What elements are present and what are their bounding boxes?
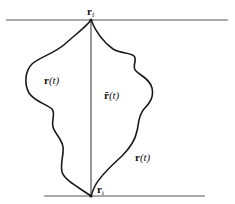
initial-point-label: ri xyxy=(97,183,104,197)
left-path xyxy=(26,20,91,196)
right-path-label: r(t) xyxy=(135,151,151,164)
trajectory-diagram: rf ri r(t) r̄(t) r(t) xyxy=(0,0,235,204)
initial-point-marker xyxy=(89,194,92,197)
final-point-label: rf xyxy=(87,5,95,19)
right-path xyxy=(91,20,153,196)
classical-path-label: r̄(t) xyxy=(104,89,120,102)
left-path-label: r(t) xyxy=(44,74,60,87)
